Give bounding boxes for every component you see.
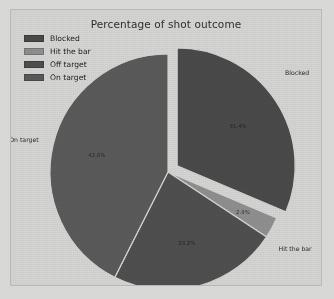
pie-chart: 31.4% 2.9% 23.2% 42.6% Blocked Hit the b… [11,10,321,285]
category-label-hit-the-bar: Hit the bar [279,245,312,252]
slice-percent-off-target: 23.2% [178,240,195,246]
category-label-blocked: Blocked [285,69,309,76]
category-label-on-target: On target [10,135,39,142]
pie-svg [11,10,322,286]
slice-percent-hit-the-bar: 2.9% [236,209,250,215]
slice-percent-on-target: 42.6% [88,152,105,158]
chart-figure: Percentage of shot outcome Blocked Hit t… [10,9,322,286]
slice-percent-blocked: 31.4% [230,123,247,129]
